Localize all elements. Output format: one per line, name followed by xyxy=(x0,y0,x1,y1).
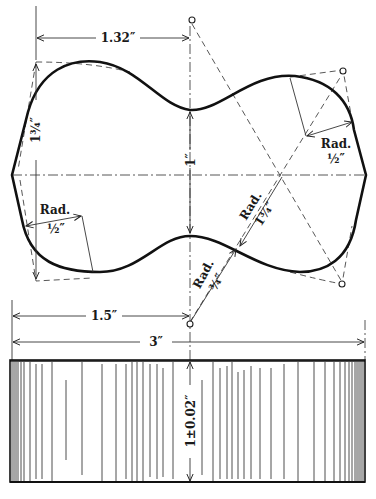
dim-label-1-3-4: 1¾″ xyxy=(29,116,43,143)
plan-view: 1.32″ 1¾″ 1″ Rad. ½″ Rad. ½″ Rad. 1¾″ Ra… xyxy=(12,6,366,360)
edge-view: 1±0.02″ xyxy=(10,360,365,482)
dim-label-1-32: 1.32″ xyxy=(101,31,136,45)
pivot-upper-right-icon xyxy=(340,68,346,74)
diagonal-from-top-pivot xyxy=(192,24,342,282)
dim-label-thickness: 1±0.02″ xyxy=(184,394,198,448)
pivot-top-icon xyxy=(189,17,195,23)
drawing-canvas: 1.32″ 1¾″ 1″ Rad. ½″ Rad. ½″ Rad. 1¾″ Ra… xyxy=(0,0,376,499)
radius-title-upper-right: Rad. xyxy=(321,137,352,151)
pivot-bottom-icon xyxy=(187,321,193,327)
radius-arrow-upper-right xyxy=(307,122,352,136)
radius-value-lower-left: ½″ xyxy=(47,222,66,236)
pivot-lower-right-icon xyxy=(339,281,345,287)
radius-line-lower-left xyxy=(82,216,93,272)
dim-label-3: 3″ xyxy=(149,335,163,349)
radius-line-upper-right xyxy=(290,78,306,136)
technical-drawing: 1.32″ 1¾″ 1″ Rad. ½″ Rad. ½″ Rad. 1¾″ Ra… xyxy=(0,0,376,499)
dim-label-1: 1″ xyxy=(184,153,198,167)
length-dimensions: 1.5″ 3″ xyxy=(12,300,365,360)
radius-value-upper-right: ½″ xyxy=(327,152,346,166)
dim-label-1-5: 1.5″ xyxy=(91,309,118,323)
radius-title-lower-left: Rad. xyxy=(40,203,71,217)
